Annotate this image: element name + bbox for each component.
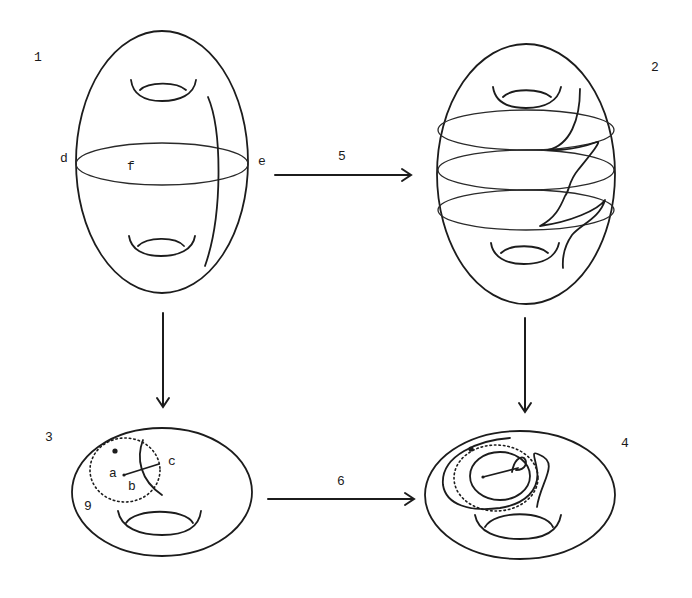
point-label-f: f	[127, 160, 135, 173]
point-label-9: 9	[84, 500, 92, 513]
panel-1-label: 1	[34, 51, 42, 64]
arrow-6	[268, 493, 414, 505]
point-label-e: e	[258, 155, 266, 168]
panel-4-torus	[425, 431, 615, 559]
arrow-down-right	[519, 318, 531, 412]
panel-2-label: 2	[651, 61, 659, 74]
panel-3-label: 3	[45, 431, 53, 444]
arrow-6-label: 6	[337, 475, 345, 488]
panel-2-surface	[437, 44, 615, 304]
point-label-a: a	[109, 467, 117, 480]
panel-1-surface	[76, 31, 248, 293]
panel-3-torus	[72, 428, 252, 556]
arrow-5-label: 5	[338, 150, 346, 163]
point-label-d: d	[60, 152, 68, 165]
arrow-down-left	[157, 313, 169, 407]
point-label-b: b	[128, 480, 136, 493]
diagram-canvas: 1 2 3 4 d f e 5 6 a b c 9	[0, 0, 692, 598]
point-label-c: c	[168, 455, 176, 468]
panel-4-label: 4	[621, 437, 629, 450]
arrow-5	[275, 169, 411, 181]
diagram-drawing	[0, 0, 692, 598]
